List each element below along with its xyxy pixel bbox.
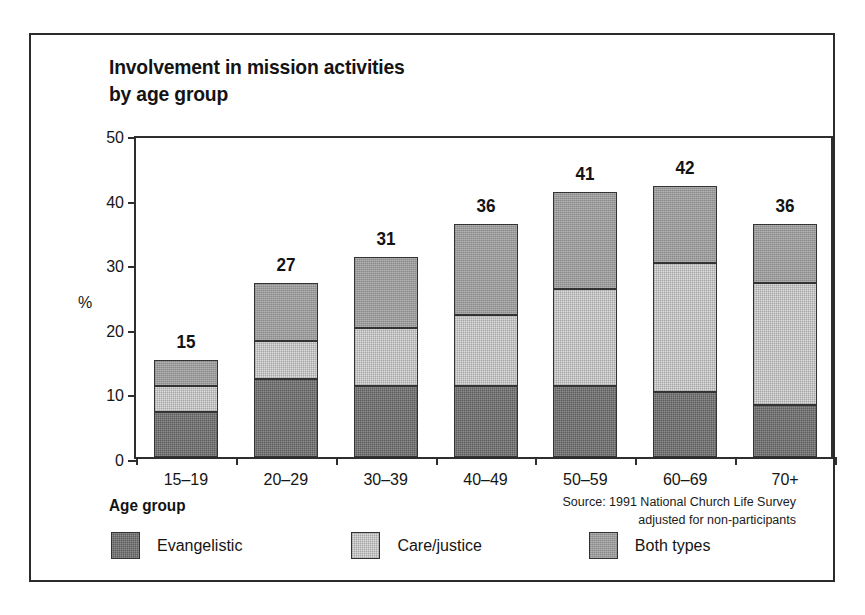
y-tick-label: 0	[92, 452, 124, 470]
plot-area: 01020304050 15273136414236 15–1920–2930–…	[134, 136, 833, 459]
bar-segment	[553, 289, 617, 386]
bar-total-label: 27	[276, 254, 295, 276]
bar-segment	[653, 186, 717, 264]
bar-group: 27	[254, 134, 318, 457]
x-tick-label: 50–59	[563, 471, 608, 489]
x-tick-mark	[336, 457, 338, 465]
legend-swatch-both	[589, 532, 618, 559]
y-tick-label: 50	[92, 129, 124, 147]
x-tick-mark	[236, 457, 238, 465]
y-tick-label: 40	[92, 194, 124, 212]
bar-segment	[553, 386, 617, 457]
bar-segment	[254, 379, 318, 457]
legend-item-both[interactable]: Both types	[589, 532, 711, 559]
legend-label: Evangelistic	[157, 537, 242, 555]
bar-group: 36	[454, 134, 518, 457]
bar-segment	[454, 386, 518, 457]
chart-title: Involvement in mission activities by age…	[109, 54, 624, 107]
bar-total-label: 42	[676, 157, 695, 179]
bar-segment	[154, 412, 218, 457]
bar-segment	[454, 315, 518, 386]
figure-frame: Involvement in mission activities by age…	[29, 33, 835, 582]
bar-segment	[454, 224, 518, 314]
y-tick-mark	[128, 460, 136, 462]
bar-segment	[753, 224, 817, 282]
bar-total-label: 15	[176, 331, 195, 353]
bar-group: 41	[553, 134, 617, 457]
y-tick-mark	[128, 331, 136, 333]
bar-segment	[354, 257, 418, 328]
bar-segment	[254, 341, 318, 380]
y-tick-mark	[128, 137, 136, 139]
bar-segment	[753, 283, 817, 406]
bar-segment	[753, 405, 817, 457]
source-note: Source: 1991 National Church Life Survey…	[563, 494, 796, 530]
bar-group: 31	[354, 134, 418, 457]
y-tick-mark	[128, 266, 136, 268]
legend-label: Care/justice	[397, 537, 481, 555]
bar-segment	[354, 328, 418, 386]
bar-group: 15	[154, 134, 218, 457]
x-tick-mark	[735, 457, 737, 465]
bar-total-label: 36	[776, 195, 795, 217]
y-tick-label: 10	[92, 387, 124, 405]
x-tick-mark	[835, 457, 837, 465]
x-tick-mark	[136, 457, 138, 465]
y-tick-mark	[128, 202, 136, 204]
legend-label: Both types	[635, 537, 711, 555]
y-tick-label: 20	[92, 323, 124, 341]
bar-segment	[653, 392, 717, 457]
bar-segment	[254, 283, 318, 341]
bar-total-label: 41	[576, 163, 595, 185]
x-tick-label: 20–29	[264, 471, 309, 489]
bar-segment	[653, 263, 717, 392]
bar-total-label: 36	[476, 195, 495, 217]
bar-segment	[354, 386, 418, 457]
bar-segment	[553, 192, 617, 289]
bar-group: 36	[753, 134, 817, 457]
x-tick-label: 40–49	[463, 471, 508, 489]
x-tick-label: 70+	[771, 471, 798, 489]
bar-segment	[154, 386, 218, 412]
x-tick-mark	[436, 457, 438, 465]
y-tick-label: 30	[92, 258, 124, 276]
legend-item-evangelistic[interactable]: Evangelistic	[111, 532, 242, 559]
bar-group: 42	[653, 134, 717, 457]
y-tick-mark	[128, 395, 136, 397]
legend-swatch-care	[351, 532, 380, 559]
y-axis-title: %	[78, 294, 92, 312]
x-tick-mark	[535, 457, 537, 465]
bar-segment	[154, 360, 218, 386]
chart-legend: EvangelisticCare/justiceBoth types	[111, 532, 710, 559]
bar-total-label: 31	[376, 228, 395, 250]
x-tick-mark	[635, 457, 637, 465]
x-tick-label: 15–19	[164, 471, 209, 489]
legend-item-care[interactable]: Care/justice	[351, 532, 481, 559]
x-tick-label: 60–69	[663, 471, 708, 489]
x-axis-title: Age group	[109, 496, 186, 516]
x-tick-label: 30–39	[363, 471, 408, 489]
legend-swatch-evangelistic	[111, 532, 140, 559]
